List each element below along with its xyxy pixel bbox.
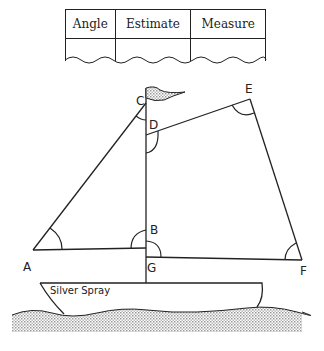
sailboat-diagram [0, 0, 324, 351]
label-G: G [147, 261, 156, 275]
segment-AB [33, 248, 146, 250]
angle-B [131, 230, 146, 249]
label-D: D [149, 118, 158, 132]
boat-name: Silver Spray [50, 285, 110, 296]
label-C: C [136, 94, 144, 108]
water [12, 307, 311, 332]
segment-CA [33, 103, 146, 250]
flag [146, 87, 185, 101]
segment-EF [250, 99, 302, 260]
label-F: F [300, 264, 307, 278]
angle-E [232, 105, 254, 115]
angle-F [285, 243, 296, 260]
label-A: A [23, 260, 31, 274]
label-E: E [245, 82, 253, 96]
segment-GF [146, 257, 302, 260]
angle-A [50, 228, 62, 249]
table-torn-edge [65, 57, 266, 63]
segment-DE [146, 99, 250, 135]
angle-C [136, 116, 146, 120]
label-B: B [150, 223, 158, 237]
angle-G [146, 241, 161, 257]
